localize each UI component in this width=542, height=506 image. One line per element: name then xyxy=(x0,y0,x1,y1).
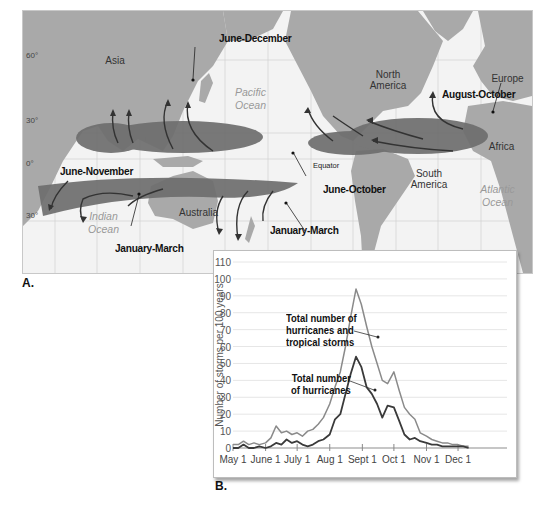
continent-label-africa: Africa xyxy=(479,141,524,152)
season-label-sw-pacific: January-March xyxy=(270,224,339,236)
ocean-label-pacific: Pacific Ocean xyxy=(228,86,273,112)
season-label-ne-pacific: June-October xyxy=(323,183,386,195)
storm-regions-map: 60° 30° 0° 30° Asia North America Europe… xyxy=(22,10,533,274)
season-label-n-atlantic: August-October xyxy=(442,88,515,100)
y-tick-label: 0 xyxy=(225,443,231,454)
continent-label-europe: Europe xyxy=(485,73,530,84)
continent-label-australia: Australia xyxy=(171,207,226,218)
season-label-nw-pacific: June-December xyxy=(219,32,292,44)
x-tick-label: Sept 1 xyxy=(348,454,377,465)
storm-frequency-chart: 0102030405060708090100110May 1June 1July… xyxy=(213,250,517,478)
leader-point xyxy=(377,336,380,339)
season-label-n-indian: June-November xyxy=(60,165,133,177)
y-tick-label: 100 xyxy=(214,274,231,285)
x-tick-label: Dec 1 xyxy=(445,454,472,465)
y-tick-label: 10 xyxy=(220,426,232,437)
leader-hurricanes xyxy=(350,381,374,390)
x-tick-label: June 1 xyxy=(251,454,281,465)
ocean-label-indian: Indian Ocean xyxy=(81,210,126,236)
y-tick-label: 110 xyxy=(215,257,231,268)
chart-plot: 0102030405060708090100110May 1June 1July… xyxy=(214,251,516,477)
latitude-30n-label: 30° xyxy=(26,116,38,125)
zone-n-indian xyxy=(76,123,146,153)
ocean-label-atlantic: Atlantic Ocean xyxy=(475,183,520,209)
y-axis-label: Number of storms per 100 years xyxy=(214,283,225,426)
season-label-s-indian: January-March xyxy=(115,242,184,254)
continent-label-asia: Asia xyxy=(95,55,135,66)
x-tick-label: Oct 1 xyxy=(382,454,406,465)
latitude-60-label: 60° xyxy=(26,51,38,60)
leader-total-storms xyxy=(354,331,377,337)
panel-b-label: B. xyxy=(215,479,227,493)
leader-point xyxy=(374,389,377,392)
x-tick-label: July 1 xyxy=(284,454,311,465)
annotation-total-storms: Total number of hurricanes and tropical … xyxy=(286,312,357,348)
series-line-hurricanes xyxy=(233,357,469,448)
latitude-0-label: 0° xyxy=(26,159,34,168)
panel-a-label: A. xyxy=(22,276,34,290)
x-tick-label: Nov 1 xyxy=(413,454,440,465)
continent-label-south-america: South America xyxy=(409,168,449,190)
annotation-hurricanes: Total number of hurricanes xyxy=(291,372,351,396)
latitude-30s-label: 30° xyxy=(26,211,38,220)
x-tick-label: May 1 xyxy=(219,454,247,465)
equator-label: Equator xyxy=(313,161,339,170)
continent-label-north-america: North America xyxy=(363,69,413,91)
x-tick-label: Aug 1 xyxy=(317,454,344,465)
